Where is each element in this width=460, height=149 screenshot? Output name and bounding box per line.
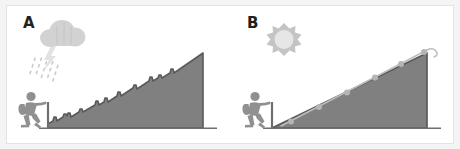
hiker-boot-back	[245, 124, 254, 127]
panel-b: B	[231, 6, 455, 145]
mountain-shape-rocky	[48, 53, 203, 128]
trail-marker	[288, 119, 294, 125]
rain-drops	[29, 55, 60, 82]
hiker-leg-back	[248, 114, 255, 126]
hiker-head	[250, 92, 259, 101]
trail-marker	[372, 75, 378, 81]
sun-icon	[267, 23, 302, 56]
hiker-boot-back	[21, 124, 30, 127]
figure-card: A	[6, 5, 454, 144]
hiker-head	[26, 92, 35, 101]
trail-marker	[316, 104, 322, 110]
hiker-leg-front	[31, 114, 41, 124]
rain-cloud-icon	[29, 20, 85, 82]
trail-marker	[421, 49, 427, 55]
hiker-boot-front	[258, 123, 265, 129]
hiker-icon	[18, 92, 46, 129]
hiker-backpack	[18, 104, 26, 115]
hiker-arm	[259, 102, 271, 106]
hiker-icon	[242, 92, 270, 129]
panel-b-scene	[231, 6, 455, 145]
panel-a: A	[7, 6, 231, 145]
trail-marker	[398, 61, 404, 67]
figure-container: A	[0, 0, 460, 149]
hiker-leg-back	[24, 114, 31, 126]
cloud-shape	[40, 20, 86, 47]
hiker-boot-front	[34, 123, 41, 129]
hiker-backpack	[242, 104, 250, 115]
lightning-bolt-icon	[43, 46, 56, 72]
trail-marker	[344, 90, 350, 96]
hiker-arm	[35, 102, 47, 106]
panel-a-scene	[7, 6, 231, 145]
hiker-leg-front	[255, 114, 265, 124]
sun-disc	[275, 30, 294, 49]
